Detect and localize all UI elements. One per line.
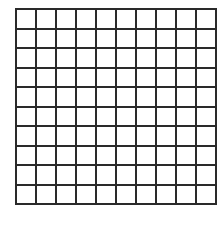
grid-cell bbox=[16, 87, 36, 107]
grid-cell bbox=[56, 185, 76, 205]
grid-cell bbox=[116, 9, 136, 29]
grid-cell bbox=[36, 146, 56, 166]
grid-cell bbox=[136, 146, 156, 166]
grid-row bbox=[16, 9, 216, 29]
grid-cell bbox=[196, 165, 216, 185]
grid-body bbox=[16, 9, 216, 204]
grid-cell bbox=[56, 165, 76, 185]
grid-cell bbox=[136, 87, 156, 107]
grid-cell bbox=[76, 165, 96, 185]
grid-cell bbox=[136, 165, 156, 185]
grid-cell bbox=[36, 185, 56, 205]
grid-row bbox=[16, 146, 216, 166]
grid-cell bbox=[56, 126, 76, 146]
grid-cell bbox=[16, 107, 36, 127]
grid-cell bbox=[176, 126, 196, 146]
grid-cell bbox=[76, 107, 96, 127]
grid-cell bbox=[176, 146, 196, 166]
grid-cell bbox=[36, 29, 56, 49]
grid-row bbox=[16, 165, 216, 185]
grid-cell bbox=[156, 165, 176, 185]
grid-cell bbox=[116, 126, 136, 146]
grid-cell bbox=[196, 29, 216, 49]
grid-cell bbox=[196, 9, 216, 29]
grid-cell bbox=[76, 48, 96, 68]
grid-cell bbox=[136, 185, 156, 205]
grid-cell bbox=[76, 185, 96, 205]
grid-cell bbox=[156, 68, 176, 88]
grid-cell bbox=[116, 185, 136, 205]
grid-cell bbox=[76, 126, 96, 146]
grid-cell bbox=[196, 107, 216, 127]
grid-cell bbox=[136, 68, 156, 88]
grid-cell bbox=[76, 87, 96, 107]
grid-cell bbox=[96, 107, 116, 127]
grid-row bbox=[16, 107, 216, 127]
grid-cell bbox=[196, 126, 216, 146]
grid-cell bbox=[156, 87, 176, 107]
ten-by-ten-grid bbox=[15, 8, 217, 205]
grid-cell bbox=[56, 68, 76, 88]
grid-cell bbox=[116, 48, 136, 68]
grid-cell bbox=[16, 146, 36, 166]
grid-cell bbox=[16, 126, 36, 146]
grid-row bbox=[16, 126, 216, 146]
grid-cell bbox=[136, 48, 156, 68]
grid-cell bbox=[56, 9, 76, 29]
grid-cell bbox=[76, 146, 96, 166]
grid-cell bbox=[76, 9, 96, 29]
grid-cell bbox=[176, 48, 196, 68]
grid-cell bbox=[36, 126, 56, 146]
grid-cell bbox=[196, 185, 216, 205]
grid-cell bbox=[176, 9, 196, 29]
grid-cell bbox=[116, 165, 136, 185]
grid-cell bbox=[56, 48, 76, 68]
grid-cell bbox=[56, 29, 76, 49]
grid-cell bbox=[176, 29, 196, 49]
grid-cell bbox=[196, 146, 216, 166]
grid-cell bbox=[156, 29, 176, 49]
grid-cell bbox=[96, 29, 116, 49]
grid-cell bbox=[96, 9, 116, 29]
grid-cell bbox=[116, 87, 136, 107]
grid-cell bbox=[196, 48, 216, 68]
grid-cell bbox=[156, 9, 176, 29]
grid-row bbox=[16, 68, 216, 88]
grid-cell bbox=[176, 87, 196, 107]
grid-cell bbox=[16, 68, 36, 88]
grid-cell bbox=[36, 107, 56, 127]
grid-cell bbox=[156, 126, 176, 146]
grid-cell bbox=[156, 107, 176, 127]
grid-cell bbox=[176, 165, 196, 185]
grid-cell bbox=[36, 87, 56, 107]
grid-cell bbox=[116, 68, 136, 88]
grid-cell bbox=[36, 165, 56, 185]
grid-cell bbox=[16, 29, 36, 49]
grid-cell bbox=[116, 146, 136, 166]
grid-cell bbox=[96, 146, 116, 166]
grid-cell bbox=[36, 68, 56, 88]
grid-row bbox=[16, 29, 216, 49]
grid-cell bbox=[196, 68, 216, 88]
grid-cell bbox=[16, 165, 36, 185]
grid-cell bbox=[156, 48, 176, 68]
grid-cell bbox=[76, 29, 96, 49]
grid-cell bbox=[16, 9, 36, 29]
grid-cell bbox=[56, 146, 76, 166]
grid-cell bbox=[96, 165, 116, 185]
grid-cell bbox=[56, 87, 76, 107]
grid-cell bbox=[136, 29, 156, 49]
grid-cell bbox=[136, 107, 156, 127]
grid-cell bbox=[96, 48, 116, 68]
grid-row bbox=[16, 48, 216, 68]
grid-cell bbox=[96, 185, 116, 205]
grid-cell bbox=[116, 107, 136, 127]
grid-cell bbox=[56, 107, 76, 127]
grid-cell bbox=[16, 185, 36, 205]
grid-cell bbox=[196, 87, 216, 107]
grid-cell bbox=[136, 126, 156, 146]
grid-cell bbox=[116, 29, 136, 49]
grid-cell bbox=[136, 9, 156, 29]
grid-cell bbox=[156, 146, 176, 166]
grid-cell bbox=[176, 107, 196, 127]
